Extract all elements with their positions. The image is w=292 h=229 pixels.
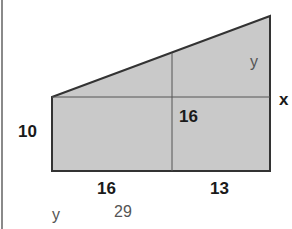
label-inner-height: 16 xyxy=(179,107,198,127)
answer-value: 29 xyxy=(114,203,132,221)
answer-label: y xyxy=(52,206,60,224)
label-y-inner: y xyxy=(250,53,258,71)
trapezoid-figure xyxy=(0,0,292,229)
label-bottom-right-width: 13 xyxy=(210,179,229,199)
trapezoid-shape xyxy=(52,16,270,171)
label-left-height: 10 xyxy=(18,122,37,142)
label-bottom-left-width: 16 xyxy=(97,179,116,199)
label-x: x xyxy=(279,90,288,110)
